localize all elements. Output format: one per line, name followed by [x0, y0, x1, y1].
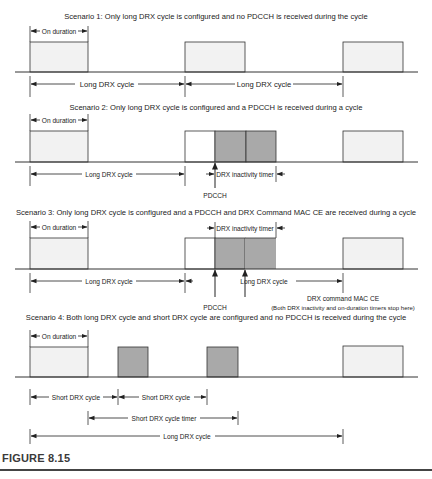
- on-duration-box: [30, 238, 88, 269]
- short-drx-cycle-label: Short DRX cycle: [142, 394, 191, 402]
- scenario-1: Scenario 1: Only long DRX cycle is confi…: [15, 12, 418, 97]
- active-box: [215, 131, 246, 162]
- on-duration-box: [185, 131, 215, 162]
- long-drx-cycle-label: Long DRX cycle: [237, 80, 291, 89]
- on-duration-label: On duration: [42, 28, 77, 35]
- caption-divider: [0, 469, 432, 471]
- active-box: [245, 238, 276, 269]
- on-duration-box: [343, 346, 403, 377]
- scenario-3: Scenario 3: Only long DRX cycle is confi…: [15, 208, 418, 311]
- scenario-2-title: Scenario 2: Only long DRX cycle is confi…: [70, 103, 363, 112]
- pdcch-label: PDCCH: [203, 192, 227, 199]
- scenario-4: Scenario 4: Both long DRX cycle and shor…: [15, 313, 418, 444]
- long-drx-cycle-label: Long DRX cycle: [80, 80, 134, 89]
- short-cycle-box: [118, 347, 148, 377]
- scenario-2: Scenario 2: Only long DRX cycle is confi…: [15, 103, 418, 199]
- scenario-4-title: Scenario 4: Both long DRX cycle and shor…: [26, 313, 406, 322]
- figure-label: FIGURE 8.15: [2, 452, 70, 464]
- on-duration-box: [30, 42, 88, 72]
- long-drx-cycle-label: Long DRX cycle: [240, 278, 288, 286]
- long-drx-cycle-label: Long DRX cycle: [85, 278, 133, 286]
- mac-ce-label: DRX command MAC CE: [307, 295, 380, 302]
- drx-inactivity-timer-label: DRX inactivity timer: [216, 171, 274, 179]
- scenario-3-title: Scenario 3: Only long DRX cycle is confi…: [16, 208, 416, 217]
- scenario-1-title: Scenario 1: Only long DRX cycle is confi…: [64, 12, 367, 21]
- pdcch-label: PDCCH: [203, 304, 227, 311]
- on-duration-label: On duration: [42, 224, 77, 231]
- on-duration-box: [30, 131, 88, 162]
- on-duration-label: On duration: [42, 117, 77, 124]
- mac-ce-note: (Both DRX inactivity and on-duration tim…: [271, 305, 415, 311]
- on-duration-label: On duration: [42, 333, 77, 340]
- short-drx-cycle-timer-label: Short DRX cycle timer: [132, 415, 198, 423]
- on-duration-box: [343, 42, 403, 72]
- on-duration-box: [343, 131, 403, 162]
- short-cycle-box: [207, 347, 238, 377]
- on-duration-box: [30, 347, 88, 377]
- on-duration-box: [185, 238, 215, 269]
- on-duration-box: [343, 238, 403, 269]
- drx-inactivity-timer-label: DRX inactivity timer: [216, 225, 274, 233]
- active-box: [215, 238, 245, 269]
- long-drx-cycle-label: Long DRX cycle: [85, 171, 133, 179]
- long-drx-cycle-label: Long DRX cycle: [163, 433, 211, 441]
- on-duration-box: [185, 42, 245, 72]
- short-drx-cycle-label: Short DRX cycle: [52, 394, 101, 402]
- active-box: [246, 131, 276, 162]
- drx-diagram: Scenario 1: Only long DRX cycle is confi…: [0, 0, 432, 479]
